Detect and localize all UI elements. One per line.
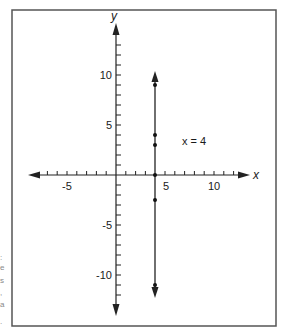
point-4-neg2 bbox=[153, 198, 157, 202]
point-4-3 bbox=[153, 143, 157, 147]
line-equation-label: x = 4 bbox=[182, 135, 206, 147]
side-fragment: . bbox=[0, 318, 2, 326]
chart-frame bbox=[12, 10, 276, 326]
x-tick-label-neg5: -5 bbox=[62, 180, 72, 192]
side-fragment: : bbox=[0, 254, 2, 262]
x-axis-label: x bbox=[252, 168, 260, 182]
y-tick-label-neg10: -10 bbox=[96, 269, 112, 281]
y-tick-label-5: 5 bbox=[106, 119, 112, 131]
side-fragment: , bbox=[0, 289, 2, 297]
x-tick-label-10: 10 bbox=[208, 180, 220, 192]
point-4-neg11 bbox=[153, 283, 157, 287]
side-fragment: e bbox=[0, 264, 4, 272]
y-tick-label-10: 10 bbox=[100, 69, 112, 81]
side-fragment: a bbox=[0, 301, 4, 309]
side-fragment: s bbox=[0, 277, 4, 285]
y-tick-label-neg5: -5 bbox=[102, 219, 112, 231]
x-tick-label-5: 5 bbox=[163, 180, 169, 192]
point-4-9 bbox=[153, 83, 157, 87]
y-axis-label: y bbox=[110, 9, 118, 23]
graph-canvas: x -5 5 10 bbox=[0, 0, 281, 336]
point-4-0 bbox=[153, 173, 157, 177]
point-4-4 bbox=[153, 133, 157, 137]
